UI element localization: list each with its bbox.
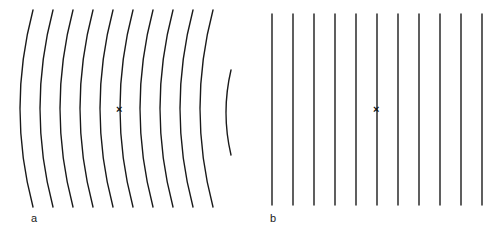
panel-b-straight-wavefronts: b × [250, 0, 500, 237]
wavefront-arc [160, 10, 173, 207]
wavefront-arc [180, 10, 193, 207]
panel-a-curved-wavefronts: a × [0, 0, 250, 237]
wavefront-figure: a × b × [0, 0, 500, 237]
panel-b-canvas [250, 0, 500, 237]
wavefront-arc [140, 10, 153, 207]
wavefront-arc [200, 10, 213, 207]
panel-a-canvas [0, 0, 250, 237]
wavefront-arc [40, 10, 53, 207]
panel-b-observation-point-marker: × [373, 104, 379, 115]
panel-a-observation-point-marker: × [116, 104, 122, 115]
wavefront-arc [226, 70, 231, 155]
wavefront-arc [80, 10, 93, 207]
wavefront-arc [20, 10, 33, 207]
panel-b-label: b [270, 213, 276, 224]
panel-a-label: a [31, 213, 37, 224]
wavefront-arc [100, 10, 113, 207]
wavefront-arc [60, 10, 73, 207]
